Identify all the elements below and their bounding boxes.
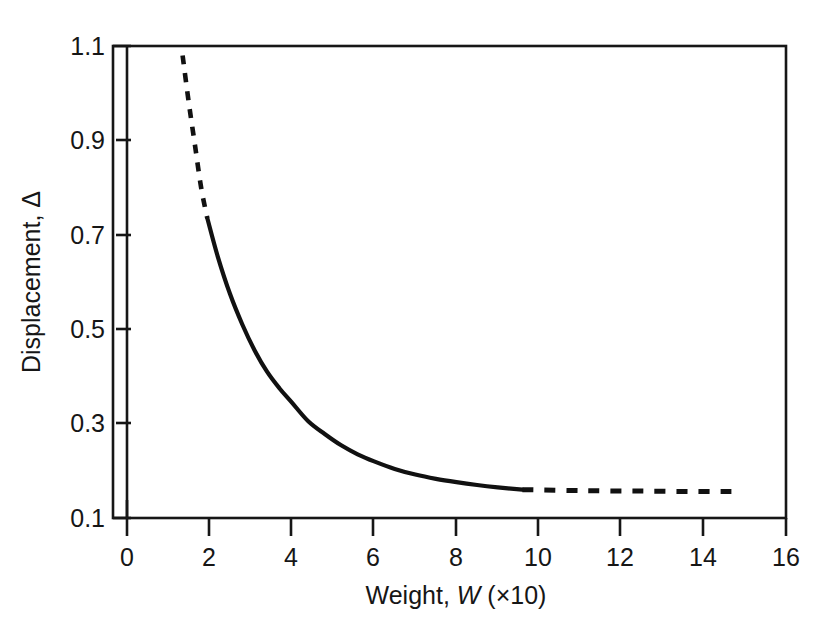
x-tick-label-10: 10: [524, 543, 552, 571]
x-tick-label-2: 2: [202, 543, 216, 571]
x-tick-label-12: 12: [606, 543, 634, 571]
x-axis-title-prefix: Weight,: [366, 581, 457, 609]
y-axis-title: Displacement, Δ: [17, 191, 45, 373]
x-tick-label-0: 0: [120, 543, 134, 571]
x-tick-label-6: 6: [366, 543, 380, 571]
x-tick-label-8: 8: [449, 543, 463, 571]
x-axis-title: Weight, W (×10): [366, 581, 547, 609]
y-tick-label-0.1: 0.1: [70, 504, 105, 532]
y-tick-label-0.3: 0.3: [70, 409, 105, 437]
displacement-weight-chart: 1.1 0.9 0.7 0.5 0.3 0.1 0 2 4 6 8 10: [0, 0, 834, 625]
figure-canvas: 1.1 0.9 0.7 0.5 0.3 0.1 0 2 4 6 8 10: [0, 0, 834, 625]
x-tick-label-4: 4: [284, 543, 298, 571]
y-tick-label-0.9: 0.9: [70, 126, 105, 154]
x-tick-label-16: 16: [772, 543, 800, 571]
x-axis-title-suffix: (×10): [480, 581, 546, 609]
x-axis-title-symbol: W: [457, 581, 483, 609]
x-tick-label-14: 14: [689, 543, 717, 571]
chart-background: [0, 0, 834, 625]
y-tick-label-0.5: 0.5: [70, 315, 105, 343]
y-tick-label-1.1: 1.1: [70, 32, 105, 60]
y-tick-label-0.7: 0.7: [70, 221, 105, 249]
